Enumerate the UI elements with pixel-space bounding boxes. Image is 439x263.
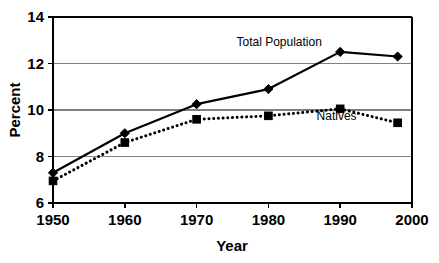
x-axis-title: Year xyxy=(216,237,248,254)
data-point-square xyxy=(394,119,402,127)
x-axis-tick-labels: 195019601970198019902000 xyxy=(36,211,428,228)
y-tick-label: 6 xyxy=(36,194,44,211)
data-point-square xyxy=(265,112,273,120)
x-tick-label: 1990 xyxy=(324,211,357,228)
y-tick-label: 12 xyxy=(27,55,44,72)
series-annotation-label: Total Population xyxy=(236,35,321,49)
y-tick-label: 14 xyxy=(27,8,44,25)
y-tick-label: 10 xyxy=(27,101,44,118)
chart-container: 68101214 195019601970198019902000 Total … xyxy=(0,0,439,263)
y-axis-title: Percent xyxy=(6,82,23,137)
x-tick-label: 1970 xyxy=(180,211,213,228)
data-point-square xyxy=(193,116,201,124)
line-chart: 68101214 195019601970198019902000 Total … xyxy=(0,0,439,263)
x-tick-label: 2000 xyxy=(395,211,428,228)
data-point-square xyxy=(49,177,57,185)
x-tick-label: 1960 xyxy=(108,211,141,228)
y-axis-tick-labels: 68101214 xyxy=(27,8,44,211)
x-tick-label: 1980 xyxy=(252,211,285,228)
y-tick-label: 8 xyxy=(36,148,44,165)
x-tick-label: 1950 xyxy=(36,211,69,228)
data-point-square xyxy=(121,139,129,147)
series-annotation-label: Natives xyxy=(317,109,357,123)
